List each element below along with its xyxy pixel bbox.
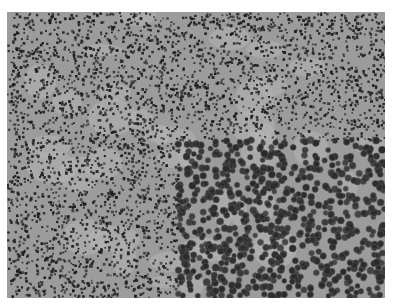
micrograph-field <box>7 12 385 298</box>
micrograph-image: Grayscale light micrograph of densely pa… <box>7 12 385 298</box>
